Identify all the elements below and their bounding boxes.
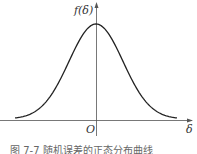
y-axis-label: f(δ) bbox=[74, 5, 93, 16]
distribution-curve bbox=[15, 24, 177, 118]
origin-label: O bbox=[86, 124, 95, 135]
x-axis-arrow-icon bbox=[187, 119, 193, 123]
x-axis-label: δ bbox=[186, 124, 193, 135]
y-axis-arrow-icon bbox=[95, 2, 99, 8]
figure-caption: 图 7-7 随机误差的正态分布曲线 bbox=[10, 146, 190, 154]
normal-distribution-chart bbox=[0, 0, 197, 154]
